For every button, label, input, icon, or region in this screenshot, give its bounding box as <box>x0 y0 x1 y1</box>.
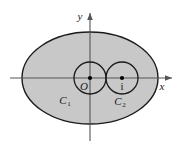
circle-c2-label: C <box>114 95 122 107</box>
circle-c1-label-subscript: 1 <box>67 100 71 108</box>
y-axis-arrowhead <box>87 13 93 20</box>
origin-point-label: O <box>80 80 88 92</box>
x-axis-label: x <box>159 80 165 92</box>
y-axis-label: y <box>77 10 83 22</box>
circle-c1-label: C <box>59 94 67 106</box>
figure-container: x y O i C 1 C 2 <box>0 0 188 151</box>
circle-c2-label-subscript: 2 <box>122 101 126 109</box>
complex-plane-diagram-svg: x y O i C 1 C 2 <box>0 0 188 151</box>
x-axis-arrowhead <box>165 75 172 81</box>
center-dot-origin <box>88 76 92 80</box>
i-point-label: i <box>120 80 123 92</box>
